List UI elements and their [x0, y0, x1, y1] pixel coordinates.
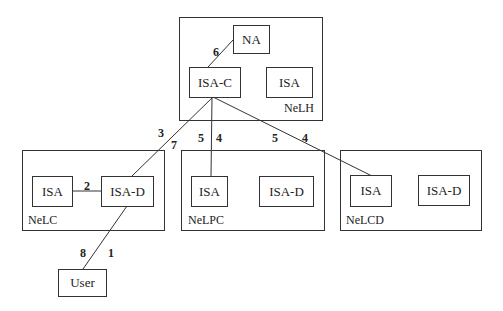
node-nelcd-isa-d: ISA-D — [418, 175, 470, 206]
edge-label-3: 3 — [158, 126, 164, 141]
edge-label-4a: 4 — [216, 131, 222, 146]
edge-label-1: 1 — [108, 246, 114, 261]
edge-label-8: 8 — [80, 246, 86, 261]
node-nelh-isa-c: ISA-C — [189, 67, 241, 98]
node-na: NA — [233, 25, 270, 54]
edge-label-4b: 4 — [302, 131, 308, 146]
group-nelh-label: NeLH — [284, 101, 314, 116]
node-nelcd-isa: ISA — [350, 175, 392, 207]
node-nelc-isa: ISA — [32, 176, 73, 207]
edge-label-5b: 5 — [272, 131, 278, 146]
node-nelc-isa-d: ISA-D — [101, 176, 154, 207]
node-user: User — [58, 269, 107, 297]
group-nelpc-label: NeLPC — [188, 213, 224, 228]
edge-label-6: 6 — [213, 45, 219, 60]
edge-label-5a: 5 — [198, 131, 204, 146]
diagram-canvas: NeLH NA ISA-C ISA NeLC ISA ISA-D NeLPC I… — [0, 0, 503, 311]
node-nelpc-isa-d: ISA-D — [259, 176, 314, 207]
node-nelpc-isa: ISA — [191, 176, 228, 207]
group-nelcd-label: NeLCD — [346, 213, 384, 228]
edge-label-7: 7 — [171, 138, 177, 153]
node-nelh-isa: ISA — [266, 67, 313, 98]
group-nelc-label: NeLC — [28, 213, 57, 228]
edge-label-2: 2 — [84, 179, 90, 194]
